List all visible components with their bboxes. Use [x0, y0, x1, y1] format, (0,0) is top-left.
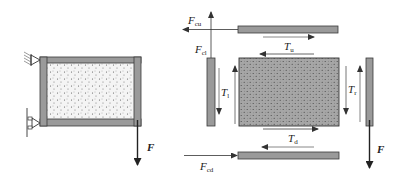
fbd-bottom-beam	[238, 152, 339, 159]
label-td: Td	[288, 133, 298, 146]
fbd-top-beam	[238, 26, 338, 33]
label-fbd-load-f: F	[377, 144, 384, 155]
frame-left-column	[40, 57, 47, 126]
frame-top-beam	[40, 57, 141, 63]
label-load-f: F	[147, 142, 154, 153]
fbd-infill-block	[239, 58, 339, 126]
label-fcl: Fcl	[195, 44, 207, 57]
label-tu: Tu	[284, 41, 294, 54]
pin-support-icon	[24, 52, 40, 66]
infill-panel	[47, 63, 134, 119]
frame-right-column	[134, 57, 141, 126]
label-fcu: Fcu	[188, 15, 201, 28]
label-fcd: Fcd	[200, 161, 213, 174]
fbd-left-column	[207, 58, 215, 126]
label-tl: Tl	[221, 87, 229, 100]
diagram-canvas	[0, 0, 406, 181]
frame-bottom-beam	[40, 119, 141, 126]
label-tr: Tr	[348, 84, 356, 97]
infilled-frame-assembly	[40, 57, 141, 126]
roller-support-icon	[27, 108, 40, 137]
fbd-right-column	[366, 58, 373, 126]
